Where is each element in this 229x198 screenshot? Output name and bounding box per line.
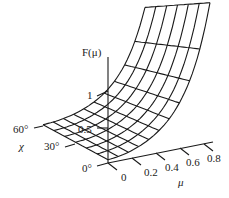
chi-tick-label-60: 60° [13,123,28,135]
chi-tick-0 [97,163,108,166]
mu-tick-label-02: 0.2 [144,166,158,178]
mu-gridline [125,65,190,81]
surface-wireframe [43,3,210,160]
surface-plot: F(μ) 1 0.5 60° χ 30° 0° 0 0.2 0.4 0.6 0.… [0,0,229,198]
z-axis-label: F(μ) [82,46,102,59]
mu-gridline [114,81,179,103]
mu-gridline [94,102,159,131]
mu-gridline [104,93,169,119]
mu-tick-label-0: 0 [121,171,127,183]
mu-tick-label-04: 0.4 [165,161,179,173]
chi-tick-60 [34,126,43,128]
chi-tick-30 [65,144,75,147]
mu-tick-04 [156,153,165,160]
mu-tick-0 [108,163,117,170]
z-tick-label-05: 0.5 [78,123,92,135]
mu-tick-02 [132,158,141,165]
chi-axis-label: χ [18,140,25,152]
mu-tick-label-08: 0.8 [207,152,221,164]
mu-tick-08 [204,144,213,151]
chi-tick-label-30: 30° [44,140,59,152]
axes [34,57,213,170]
mu-tick-label-06: 0.6 [186,156,200,168]
z-tick-label-1: 1 [87,89,93,101]
mu-axis-label: μ [177,176,184,188]
mu-tick-06 [180,148,189,155]
chi-tick-label-0: 0° [82,162,92,174]
